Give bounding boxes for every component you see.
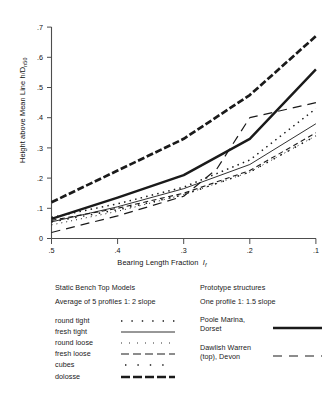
y-tick-label: .1 xyxy=(37,204,43,213)
legend-item-poole-marina: Poole Marina, Dorset xyxy=(200,315,324,334)
legend-item-round-tight: round tight xyxy=(55,315,195,326)
x-axis-label: Bearing Length Fraction If xyxy=(0,258,324,268)
legend-item-dolosse: dolosse xyxy=(55,370,195,381)
legend-swatch-sparse-dotted xyxy=(119,359,195,370)
legend-right-heading: Prototype structures xyxy=(200,283,324,292)
legend-swatch-long-dashed xyxy=(272,346,324,358)
legend-left-heading: Static Bench Top Models xyxy=(55,283,195,292)
legend-item-round-loose: round loose xyxy=(55,337,195,348)
legend-swatch-thick-dashed xyxy=(119,371,195,382)
legend-label: round tight xyxy=(55,316,119,325)
x-tick-label: .3 xyxy=(181,246,187,255)
legend-column-bench-models: Static Bench Top Models Average of 5 pro… xyxy=(55,283,195,382)
legend-column-prototype-structures: Prototype structures One profile 1: 1.5 … xyxy=(200,283,324,371)
series-line-round-tight xyxy=(52,109,316,218)
legend-swatch-thick-solid xyxy=(272,318,324,330)
y-axis-label-subscript: n50 xyxy=(22,57,28,66)
legend-swatch-fine-dotted xyxy=(119,337,195,348)
legend-label: round loose xyxy=(55,338,119,347)
legend-label-multiline: Poole Marina, Dorset xyxy=(200,315,272,334)
legend-label: cubes xyxy=(55,360,119,369)
y-tick-label: .5 xyxy=(37,83,43,92)
legend-item-cubes: cubes xyxy=(55,359,195,370)
plot-area: 0 .1 .2 .3 .4 .5 .6 .7 .5 .4 .3 .2 .1 xyxy=(0,0,324,280)
legend-label-line1: Dawlish Warren xyxy=(200,343,251,352)
chart-legend: Static Bench Top Models Average of 5 pro… xyxy=(0,283,324,399)
x-tick-label: .1 xyxy=(313,246,319,255)
y-axis-label: Height above Mean Line h/Dn50 xyxy=(18,10,28,210)
legend-right-subheading: One profile 1: 1.5 slope xyxy=(200,297,324,306)
y-tick-label: .3 xyxy=(37,144,43,153)
legend-label-multiline: Dawlish Warren (top), Devon xyxy=(200,343,272,362)
legend-left-subheading: Average of 5 profiles 1: 2 slope xyxy=(55,297,195,306)
legend-label-line2: (top), Devon xyxy=(200,352,240,361)
plot-svg: 0 .1 .2 .3 .4 .5 .6 .7 .5 .4 .3 .2 .1 xyxy=(0,0,324,280)
legend-label: dolosse xyxy=(55,372,119,381)
y-ticks: 0 .1 .2 .3 .4 .5 .6 .7 xyxy=(37,23,52,243)
x-ticks: .5 .4 .3 .2 .1 xyxy=(49,239,319,256)
legend-label-line1: Poole Marina, xyxy=(200,315,245,324)
y-tick-label: .6 xyxy=(37,53,43,62)
legend-item-fresh-loose: fresh loose xyxy=(55,348,195,359)
x-axis-label-subscript: f xyxy=(205,262,207,268)
legend-swatch-dotted xyxy=(119,315,195,326)
x-tick-label: .4 xyxy=(115,246,121,255)
chart-figure: 0 .1 .2 .3 .4 .5 .6 .7 .5 .4 .3 .2 .1 xyxy=(0,0,324,399)
y-tick-label: 0 xyxy=(39,234,43,243)
x-axis-label-text: Bearing Length Fraction xyxy=(117,258,198,267)
legend-swatch-solid-thin xyxy=(119,326,195,337)
legend-item-fresh-tight: fresh tight xyxy=(55,326,195,337)
legend-label: fresh tight xyxy=(55,327,119,336)
legend-item-dawlish-warren: Dawlish Warren (top), Devon xyxy=(200,343,324,362)
series-line-round-loose xyxy=(52,136,316,225)
x-tick-label: .2 xyxy=(247,246,253,255)
legend-swatch-dashed xyxy=(119,348,195,359)
y-tick-label: .2 xyxy=(37,174,43,183)
x-tick-label: .5 xyxy=(49,246,55,255)
series-line-dolosse xyxy=(52,36,316,202)
legend-label: fresh loose xyxy=(55,349,119,358)
data-series-layer xyxy=(52,36,316,232)
y-tick-label: .7 xyxy=(37,23,43,32)
y-axis-label-text: Height above Mean Line h/D xyxy=(18,67,27,163)
y-tick-label: .4 xyxy=(37,113,43,122)
legend-label-line2: Dorset xyxy=(200,324,221,333)
